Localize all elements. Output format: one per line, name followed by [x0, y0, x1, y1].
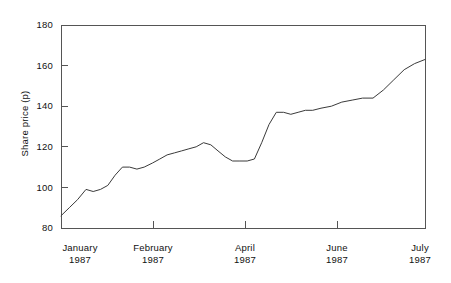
- x-tick-label-february: February 1987: [108, 242, 198, 266]
- y-tick-label-160: 160: [13, 60, 53, 71]
- share-price-series: [61, 60, 425, 216]
- x-tick-label-april-month: April: [200, 242, 290, 254]
- x-tick-label-february-year: 1987: [108, 254, 198, 266]
- x-tick-label-june-year: 1987: [292, 254, 382, 266]
- x-tick-label-april-year: 1987: [200, 254, 290, 266]
- chart-plot-area: [0, 0, 451, 283]
- x-tick-label-june-month: June: [292, 242, 382, 254]
- y-tick-label-120: 120: [13, 141, 53, 152]
- share-price-line-chart: Share price (p) 180 160 140 120 100 80 J…: [0, 0, 451, 283]
- x-tick-label-july-year: 1987: [375, 254, 451, 266]
- y-tick-label-140: 140: [13, 100, 53, 111]
- x-tick-label-july-month: July: [375, 242, 451, 254]
- y-tick-label-80: 80: [13, 222, 53, 233]
- y-tick-label-100: 100: [13, 182, 53, 193]
- x-tick-label-february-month: February: [108, 242, 198, 254]
- x-tick-label-july: July 1987: [375, 242, 451, 266]
- x-tick-label-june: June 1987: [292, 242, 382, 266]
- y-axis-title: Share price (p): [19, 59, 30, 189]
- y-tick-label-180: 180: [13, 19, 53, 30]
- x-tick-label-april: April 1987: [200, 242, 290, 266]
- plot-frame: [61, 25, 425, 228]
